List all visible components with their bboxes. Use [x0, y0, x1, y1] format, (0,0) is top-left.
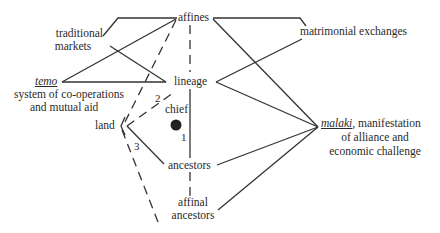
edge-markets-lineage — [110, 46, 166, 82]
edge-affines-matrimonial — [213, 18, 306, 26]
node-affinal-ancestors-line2: ancestors — [165, 209, 221, 222]
node-matrimonial-exchanges: matrimonial exchanges — [300, 25, 407, 38]
node-malaki-desc-line1: , manifestation — [352, 117, 420, 129]
node-malaki: malaki, manifestation — [321, 117, 421, 130]
edge-label-3: 3 — [134, 140, 140, 152]
edge-ancestors-malaki — [217, 127, 318, 165]
kinship-exchange-diagram: affines traditional markets matrimonial … — [0, 0, 440, 233]
node-affines: affines — [178, 11, 209, 24]
edge-label-1: 1 — [181, 131, 187, 143]
node-temo-term: temo — [35, 75, 57, 88]
node-affinal-ancestors-line1: affinal — [168, 196, 218, 209]
node-temo-desc-line2: and mutual aid — [30, 101, 98, 114]
node-ancestors: ancestors — [168, 159, 211, 172]
node-malaki-desc-line2: of alliance and — [330, 131, 420, 144]
node-temo-desc-line1: system of co-operations — [14, 88, 124, 101]
edge-land-affinal-3-dashed — [122, 130, 158, 222]
node-traditional-markets-line1: traditional — [47, 27, 103, 40]
node-land: land — [95, 119, 115, 132]
edge-affinal-ancestors-malaki — [218, 127, 318, 210]
edge-markets-affines — [103, 18, 177, 36]
node-traditional-markets-line2: markets — [53, 40, 93, 53]
edge-lineage-matrimonial — [216, 39, 302, 82]
node-lineage: lineage — [174, 75, 207, 88]
node-malaki-term: malaki — [321, 117, 352, 129]
edge-lineage-malaki — [216, 82, 318, 127]
node-malaki-desc-line3: economic challenge — [320, 145, 430, 158]
node-chief: chief — [165, 103, 188, 116]
chief-dot — [171, 120, 182, 131]
edge-label-2: 2 — [155, 92, 161, 104]
